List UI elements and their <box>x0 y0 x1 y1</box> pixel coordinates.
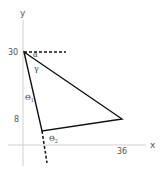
diagram-canvas: y x 30 8 36 α γ Θ1 Θ2 <box>0 0 163 170</box>
theta2-label: Θ2 <box>49 135 58 144</box>
x-axis-label: x <box>150 140 156 150</box>
x-tick-36: 36 <box>117 147 127 156</box>
alpha-label: α <box>33 51 38 59</box>
downward-dashed-line <box>42 131 47 163</box>
y-tick-8: 8 <box>14 115 19 124</box>
theta1-label: Θ1 <box>25 94 34 103</box>
y-axis-label: y <box>20 8 26 18</box>
y-tick-30: 30 <box>8 48 18 57</box>
gamma-label: γ <box>34 64 39 73</box>
